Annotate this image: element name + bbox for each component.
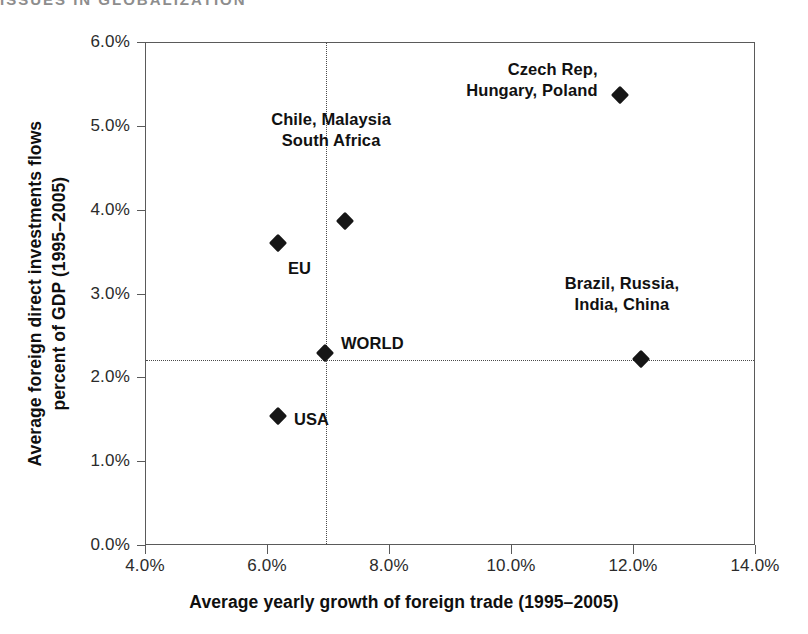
x-axis-tick-label: 6.0% [247, 556, 287, 576]
y-axis-tick-mark [137, 126, 145, 127]
scatter-chart-figure: Average foreign direct investments flows… [0, 0, 808, 634]
y-axis-tick-label: 5.0% [52, 116, 130, 136]
y-axis-tick-mark [137, 545, 145, 546]
data-point-label: USA [294, 409, 329, 430]
x-axis-tick-label: 8.0% [369, 556, 409, 576]
x-axis-tick-mark [755, 545, 756, 554]
y-axis-tick-label: 3.0% [52, 284, 130, 304]
y-axis-tick-mark [137, 210, 145, 211]
horizontal-reference-line [146, 360, 754, 361]
y-axis-tick-label: 0.0% [52, 535, 130, 555]
data-point-label: Chile, Malaysia South Africa [271, 109, 391, 151]
x-axis-tick-mark [633, 545, 634, 554]
y-axis-tick-label: 2.0% [52, 367, 130, 387]
y-axis-tick-mark [137, 42, 145, 43]
x-axis-title: Average yearly growth of foreign trade (… [0, 592, 808, 613]
y-axis-tick-mark [137, 377, 145, 378]
x-axis-tick-label: 12.0% [608, 556, 657, 576]
y-axis-tick-label: 6.0% [52, 32, 130, 52]
x-axis-tick-mark [267, 545, 268, 554]
y-axis-tick-label: 4.0% [52, 200, 130, 220]
x-axis-tick-mark [511, 545, 512, 554]
x-axis-tick-label: 4.0% [125, 556, 165, 576]
x-axis-tick-label: 10.0% [486, 556, 535, 576]
y-axis-title-line1: Average foreign direct investments flows [25, 121, 45, 467]
x-axis-tick-mark [389, 545, 390, 554]
y-axis-tick-label: 1.0% [52, 451, 130, 471]
data-point-label: WORLD [341, 333, 404, 354]
data-point-label: Czech Rep, Hungary, Poland [466, 59, 597, 101]
data-point-label: Brazil, Russia, India, China [565, 273, 679, 315]
x-axis-tick-mark [145, 545, 146, 554]
y-axis-tick-mark [137, 294, 145, 295]
x-axis-tick-label: 14.0% [730, 556, 779, 576]
y-axis-tick-mark [137, 461, 145, 462]
data-point-label: EU [288, 258, 311, 279]
